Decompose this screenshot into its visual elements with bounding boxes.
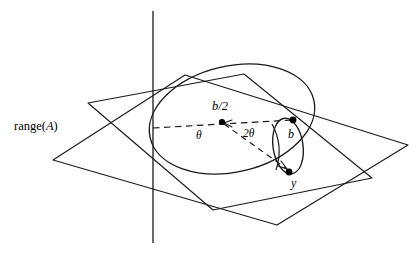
point-b-label: b [288, 128, 294, 140]
range-a-suffix: ) [54, 119, 58, 133]
dashed-line-bhalf-to-y [224, 124, 287, 169]
two-theta-label: 2θ [243, 128, 254, 140]
theta-label: θ [196, 130, 202, 142]
range-a-argument: A [46, 119, 54, 133]
secondary-plane [88, 74, 372, 210]
point-y-dot [286, 169, 293, 176]
b-over-two-label: b/2 [212, 100, 228, 113]
range-a-plane [53, 75, 408, 225]
small-ellipse [269, 116, 307, 176]
range-a-prefix: range( [14, 119, 46, 133]
geometry-diagram [0, 0, 420, 254]
point-b-half-dot [219, 119, 225, 125]
figure-root: range(A) b/2 θ 2θ b y [0, 0, 420, 254]
range-a-label: range(A) [14, 120, 58, 133]
point-b-dot [290, 117, 297, 124]
point-y-label: y [291, 177, 296, 189]
large-ellipse [138, 48, 326, 189]
